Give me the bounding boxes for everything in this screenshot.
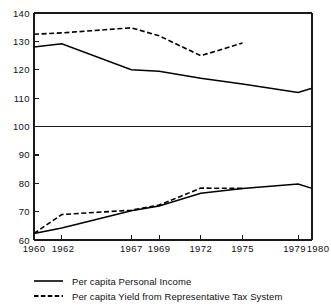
chart-container: 140 130 120 110 100 90 80 70 60 1960 196… — [0, 0, 331, 307]
y-tick-label: 120 — [13, 64, 30, 75]
legend-entry-personal-income: Per capita Personal Income — [34, 276, 191, 287]
line-chart-figure: 140 130 120 110 100 90 80 70 60 1960 196… — [0, 0, 331, 307]
y-tick-label: 100 — [13, 121, 30, 132]
series-personal-income-lower — [34, 184, 312, 233]
y-tick-label: 70 — [19, 206, 30, 217]
x-tick-label: 1969 — [148, 243, 171, 254]
y-tick-label: 140 — [13, 8, 30, 19]
x-tick-label: 1960 — [23, 243, 46, 254]
x-tick-label: 1979 — [283, 243, 306, 254]
y-tick-label: 110 — [14, 93, 30, 104]
y-tick-label: 130 — [13, 36, 30, 47]
legend-label-personal-income: Per capita Personal Income — [72, 276, 191, 287]
y-axis-tick-labels: 140 130 120 110 100 90 80 70 60 — [13, 8, 30, 246]
x-axis-tick-labels: 1960 1962 1967 1969 1972 1975 1979 1980 — [23, 243, 330, 254]
x-tick-label: 1975 — [231, 243, 254, 254]
x-tick-label: 1980 — [307, 243, 330, 254]
chart-legend: Per capita Personal Income Per capita Yi… — [34, 276, 282, 302]
x-tick-label: 1972 — [189, 243, 212, 254]
legend-entry-tax-yield: Per capita Yield from Representative Tax… — [34, 291, 282, 302]
x-tick-label: 1962 — [52, 243, 75, 254]
legend-label-tax-yield: Per capita Yield from Representative Tax… — [72, 291, 282, 302]
y-tick-label: 90 — [19, 149, 30, 160]
y-tick-label: 80 — [19, 178, 30, 189]
series-personal-income-upper — [34, 44, 312, 93]
x-tick-marks — [34, 235, 312, 240]
series-tax-yield-upper — [34, 28, 243, 56]
x-tick-label: 1967 — [120, 243, 143, 254]
